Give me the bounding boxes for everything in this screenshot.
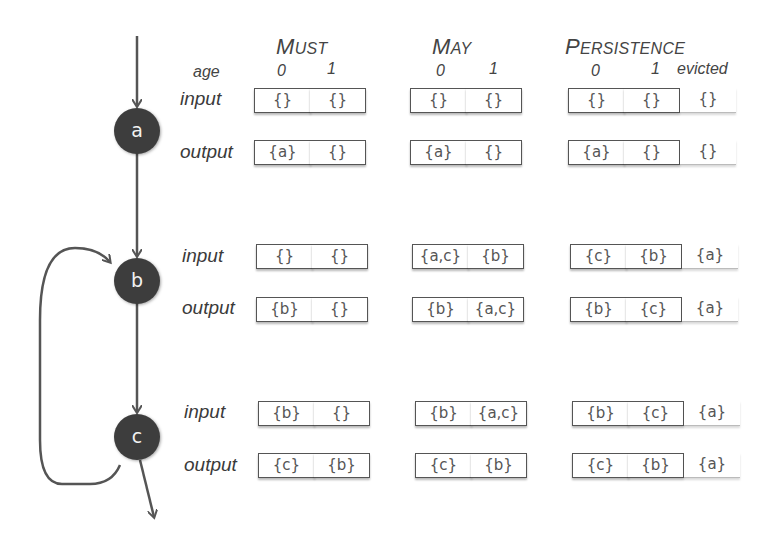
c-must-output-0: {c} [258,453,315,478]
c-may-input-1: {a,c} [471,401,527,426]
header-must: MUST [276,34,328,60]
must-age-0: 0 [277,62,286,80]
may-age-0: 0 [436,62,445,80]
c-must-output-1: {b} [314,453,370,478]
a-persistence-input-evicted: {} [680,88,736,113]
c-persistence-output-1: {b} [628,453,684,478]
a-persistence-input-1: {} [624,88,680,113]
b-persistence-input-evicted: {a} [682,244,738,269]
a-must-input-1: {} [310,88,366,113]
persistence-age-0: 0 [591,62,600,80]
c-persistence-output-0: {c} [572,453,629,478]
node-a: a [114,108,160,154]
header-persistence: PERSISTENCE [565,34,685,60]
b-must-output-1: {} [312,297,368,322]
c-may-output-1: {b} [471,453,527,478]
b-persistence-output-1: {c} [626,297,682,322]
a-must-output-1: {} [310,140,366,165]
persistence-age-evicted: evicted [677,60,728,78]
node-b: b [114,258,160,304]
a-must-input-0: {} [254,88,311,113]
header-may: MAY [432,34,471,60]
a-persistence-output-evicted: {} [680,140,736,165]
a-may-input-0: {} [410,88,467,113]
b-may-output-1: {a,c} [468,297,524,322]
node-b-input-label: input [182,245,223,267]
c-persistence-input-1: {c} [628,401,684,426]
b-may-input-1: {b} [468,244,524,269]
node-c-output-label: output [184,454,237,476]
b-persistence-output-0: {b} [570,297,627,322]
c-persistence-input-evicted: {a} [684,401,740,426]
b-persistence-output-evicted: {a} [682,297,738,322]
b-must-input-1: {} [312,244,368,269]
a-must-output-0: {a} [254,140,311,165]
b-must-input-0: {} [256,244,313,269]
c-must-input-1: {} [314,401,370,426]
node-b-output-label: output [182,297,235,319]
must-age-1: 1 [327,60,336,78]
b-may-input-0: {a,c} [412,244,469,269]
a-persistence-output-0: {a} [568,140,625,165]
node-a-input-label: input [180,88,221,110]
persistence-age-1: 1 [651,60,660,78]
c-persistence-input-0: {b} [572,401,629,426]
b-persistence-input-1: {b} [626,244,682,269]
c-may-input-0: {b} [415,401,472,426]
a-may-input-1: {} [466,88,522,113]
node-c-input-label: input [184,401,225,423]
age-label: age [193,63,220,81]
back-edge-c-b [40,248,120,484]
a-persistence-output-1: {} [624,140,680,165]
b-must-output-0: {b} [256,297,313,322]
a-persistence-input-0: {} [568,88,625,113]
a-may-output-1: {} [466,140,522,165]
exit-edge [140,460,154,517]
node-a-output-label: output [180,141,233,163]
c-persistence-output-evicted: {a} [684,453,740,478]
a-may-output-0: {a} [410,140,467,165]
b-persistence-input-0: {c} [570,244,627,269]
c-may-output-0: {c} [415,453,472,478]
c-must-input-0: {b} [258,401,315,426]
may-age-1: 1 [489,60,498,78]
node-c: c [114,414,160,460]
b-may-output-0: {b} [412,297,469,322]
